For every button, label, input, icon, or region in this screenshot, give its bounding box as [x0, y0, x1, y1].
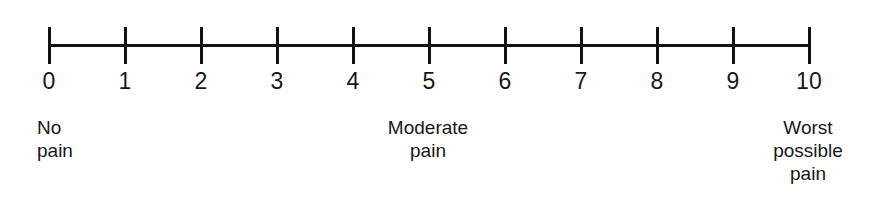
pain-scale-figure: 012345678910 No pain Moderate pain Worst… — [0, 0, 879, 205]
tick-mark-8 — [656, 27, 659, 64]
tick-label-1: 1 — [95, 68, 155, 94]
tick-mark-7 — [580, 27, 583, 64]
tick-mark-3 — [276, 27, 279, 64]
tick-label-2: 2 — [171, 68, 231, 94]
tick-mark-1 — [124, 27, 127, 64]
anchor-label-worst-possible-pain: Worst possible pain — [708, 116, 879, 185]
tick-label-group: 012345678910 — [0, 68, 879, 98]
tick-label-5: 5 — [399, 68, 459, 94]
tick-mark-4 — [352, 27, 355, 64]
tick-label-0: 0 — [19, 68, 79, 94]
tick-mark-6 — [504, 27, 507, 64]
tick-mark-0 — [48, 27, 51, 64]
pain-scale-axis — [0, 0, 879, 70]
tick-label-8: 8 — [627, 68, 687, 94]
anchor-label-moderate-pain: Moderate pain — [308, 116, 548, 162]
tick-mark-10 — [808, 27, 811, 64]
tick-mark-2 — [200, 27, 203, 64]
tick-label-7: 7 — [551, 68, 611, 94]
tick-label-6: 6 — [475, 68, 535, 94]
tick-label-4: 4 — [323, 68, 383, 94]
tick-label-3: 3 — [247, 68, 307, 94]
tick-mark-5 — [428, 27, 431, 64]
tick-label-10: 10 — [779, 68, 839, 94]
tick-mark-9 — [732, 27, 735, 64]
tick-label-9: 9 — [703, 68, 763, 94]
anchor-label-no-pain: No pain — [37, 116, 73, 162]
